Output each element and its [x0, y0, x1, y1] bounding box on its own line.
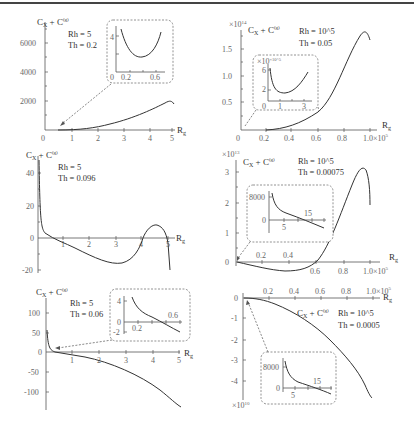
x-tick: 0	[41, 134, 45, 143]
x-tick: 1	[70, 356, 74, 365]
inset-x-tick: 0	[110, 73, 114, 82]
inset-x-tick: 0.6	[168, 311, 178, 320]
y-axis-label: CX + C(g)	[36, 287, 68, 298]
y-axis-label: CX + C(g)	[248, 25, 280, 36]
x-tick: 1	[70, 134, 74, 143]
inset-y-tick: 8000	[263, 363, 279, 372]
inset-y-tick: -2	[113, 328, 120, 337]
panel-bottom-right: 0.2 0.4 0.6 0.8 1.0×105 0 -1 -2 -3 -4 ×1…	[231, 286, 392, 410]
x-axis-label: Rg	[177, 125, 186, 136]
x-tick: 0.4	[284, 134, 294, 143]
x-tick: 1	[61, 240, 65, 249]
y-tick: 100	[28, 309, 40, 318]
x-tick: 0	[236, 134, 240, 143]
x-tick: 2	[87, 240, 91, 249]
y-multiplier: ×1014	[229, 20, 247, 29]
inset-x-tick: 0.2	[121, 73, 131, 82]
zoom-connector	[318, 107, 319, 111]
y-axis-label: CX + C(g)	[26, 150, 58, 161]
main-curve	[58, 101, 174, 130]
panel-top-right: 0 0.2 0.4 0.6 0.8 1.0×105 0.5 1.0 1.5 ×1…	[222, 20, 391, 143]
inset-x-tick: 15	[313, 377, 321, 386]
zoom-arrow	[245, 110, 256, 126]
y-tick: 20	[26, 202, 34, 211]
param-th: Th = 0.06	[70, 309, 103, 319]
x-tick: 5	[170, 134, 174, 143]
y-tick: 1.5	[222, 45, 232, 54]
zoom-arrow	[58, 340, 112, 348]
y-tick: 40	[26, 169, 34, 178]
param-th: Th = 0.0005	[338, 320, 380, 330]
inset-x-tick: 1	[278, 102, 282, 111]
y-tick: 0.5	[222, 98, 232, 107]
inset-frame	[107, 20, 173, 83]
inset-y-tick: 2	[262, 85, 266, 94]
param-rh: Rh = 10^5	[338, 308, 374, 318]
y-tick: -1	[231, 314, 238, 323]
zoom-arrow	[62, 84, 111, 124]
inset-y-tick: 6	[262, 66, 266, 75]
x-tick: 0.8	[341, 287, 351, 296]
y-tick: 50	[32, 329, 40, 338]
figure: 0 1 2 3 4 5 2000 4000 6000 CX + C(g) Rh …	[0, 0, 414, 430]
inset-y-tick: 4	[110, 33, 114, 42]
y-tick: -4	[231, 377, 238, 386]
inset-frame	[261, 352, 336, 404]
y-tick: 0	[30, 234, 34, 243]
y-tick: -50	[28, 368, 39, 377]
x-axis-label: Rg	[382, 120, 391, 131]
x-tick: 3	[114, 240, 118, 249]
param-rh: Rh = 5	[70, 298, 93, 308]
param-th: Th = 0.05	[299, 38, 332, 48]
y-tick: 2	[225, 199, 229, 208]
inset-y-tick: 0	[117, 318, 121, 327]
panel-middle-left: 1 2 3 4 5 40 20 0 -20 CX + C(g) Rh = 5 T…	[22, 150, 185, 275]
y-tick: -100	[24, 388, 39, 397]
y-tick: 4000	[20, 68, 36, 77]
y-tick: 0	[38, 348, 42, 357]
inset-y-tick: 0	[276, 384, 280, 393]
y-tick: 1.0	[222, 72, 232, 81]
x-tick: 3	[122, 134, 126, 143]
x-multiplier: 1.0×105	[363, 266, 389, 276]
param-th: Th = 0.00075	[298, 167, 344, 177]
y-tick: 0	[225, 258, 229, 267]
inset-x-tick: 0.2	[132, 324, 142, 333]
inset-x-tick: 3	[302, 102, 306, 111]
y-tick: 6000	[20, 39, 36, 48]
y-tick: 3	[225, 168, 229, 177]
y-tick: 0	[234, 294, 238, 303]
x-tick: 0.4	[283, 251, 293, 260]
x-tick: 5	[177, 356, 181, 365]
inset-y-tick: 8000	[249, 193, 265, 202]
panel-middle-right: 0.2 0.4 0.6 0.8 1.0×105 0 1 2 3 ×1013 CX…	[222, 150, 398, 276]
inset-y-tick: 0	[262, 216, 266, 225]
param-rh: Rh = 10^5	[298, 156, 334, 166]
y-axis-label: CX + C(g)	[37, 17, 69, 28]
param-th: Th = 0.2	[68, 40, 97, 50]
x-tick: 0.2	[259, 134, 269, 143]
x-tick: 4	[148, 134, 152, 143]
y-tick: 2000	[20, 97, 36, 106]
x-tick: 4	[151, 356, 155, 365]
inset-x-tick: 5	[282, 223, 286, 232]
x-tick: 0.8	[337, 134, 347, 143]
x-tick: 2	[96, 134, 100, 143]
x-axis-label: Rg	[383, 292, 392, 303]
y-tick: -20	[22, 266, 33, 275]
main-curve	[47, 330, 181, 407]
y-multiplier: ×1013	[222, 150, 240, 159]
x-tick: 0.4	[289, 287, 299, 296]
inset-x-tick: 0	[262, 102, 266, 111]
x-tick: 3	[124, 356, 128, 365]
zoom-arrow	[248, 302, 268, 352]
x-tick: 0.6	[311, 134, 321, 143]
x-multiplier: 1.0×105	[363, 133, 389, 143]
param-rh: Rh = 5	[58, 162, 81, 172]
y-axis-label: CX + C(g)	[243, 157, 275, 168]
zoom-arrow	[238, 242, 250, 258]
x-axis-label: Rg	[184, 348, 193, 359]
inset-x-tick: 0.6	[150, 73, 160, 82]
inset-frame	[110, 289, 190, 341]
x-tick: 0.6	[315, 287, 325, 296]
